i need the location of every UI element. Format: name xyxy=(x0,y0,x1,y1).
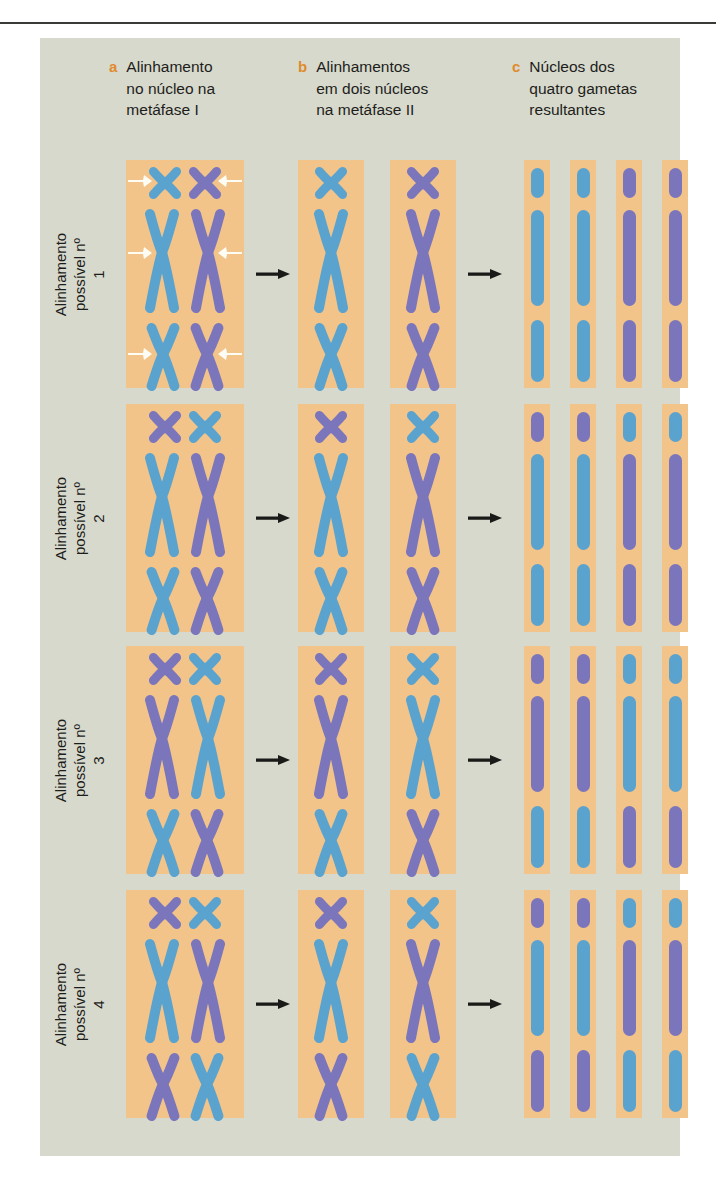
chromosome-medium-purple xyxy=(312,1052,350,1122)
gamete-chromosome-small-purple xyxy=(577,654,590,684)
row-label-alignment-3: Alinhamento possível nº 3 xyxy=(40,646,120,874)
chromosome-medium-blue xyxy=(312,808,350,878)
column-header-letter-c: c xyxy=(512,56,520,77)
metaphase1-nucleus-row3 xyxy=(126,646,244,874)
spindle-arrow-left-icon xyxy=(128,245,152,261)
chromosome-small-purple xyxy=(406,166,440,200)
row-label-text-2: Alinhamento possível nº 2 xyxy=(52,476,109,559)
chromosome-medium-blue-maternal xyxy=(144,566,182,636)
flow-arrow-icon xyxy=(256,511,290,525)
gamete-chromosome-medium-blue xyxy=(577,806,590,868)
gamete-chromosome-small-purple xyxy=(531,412,544,442)
chromosome-large-blue xyxy=(311,208,351,314)
chromosome-small-purple-paternal xyxy=(188,166,222,200)
gamete-nucleus-row3-3 xyxy=(616,646,642,874)
gamete-chromosome-small-purple xyxy=(577,412,590,442)
gamete-chromosome-medium-purple xyxy=(669,320,682,382)
gamete-nucleus-row3-1 xyxy=(524,646,550,874)
flow-arrow-icon xyxy=(256,267,290,281)
gamete-chromosome-medium-blue xyxy=(531,320,544,382)
chromosome-small-purple-maternal xyxy=(148,410,182,444)
chromosome-medium-blue xyxy=(312,566,350,636)
chromosome-medium-purple-maternal xyxy=(144,1052,182,1122)
column-header-letter-a: a xyxy=(109,56,117,77)
flow-arrow-icon xyxy=(468,753,502,767)
chromosome-large-purple-paternal xyxy=(188,938,228,1044)
gamete-chromosome-medium-blue xyxy=(577,320,590,382)
row-label-alignment-1: Alinhamento possível nº 1 xyxy=(40,160,120,388)
gamete-nucleus-row4-4 xyxy=(662,890,688,1118)
gamete-nucleus-row1-4 xyxy=(662,160,688,388)
meiosis-figure-panel: aAlinhamento no núcleo na metáfase IbAli… xyxy=(40,38,680,1156)
gamete-nucleus-row1-2 xyxy=(570,160,596,388)
chromosome-large-purple xyxy=(311,694,351,800)
gamete-nucleus-row3-2 xyxy=(570,646,596,874)
metaphase1-nucleus-row2 xyxy=(126,404,244,632)
chromosome-small-blue-paternal xyxy=(188,652,222,686)
gamete-chromosome-small-blue xyxy=(577,168,590,198)
gamete-chromosome-medium-blue xyxy=(577,564,590,626)
gamete-chromosome-large-purple xyxy=(669,210,682,306)
gamete-nucleus-row2-3 xyxy=(616,404,642,632)
column-header-b: bAlinhamentos em dois núcleos na metáfas… xyxy=(298,56,493,121)
spindle-arrow-right-icon xyxy=(218,346,242,362)
gamete-chromosome-large-blue xyxy=(669,696,682,792)
column-headers: aAlinhamento no núcleo na metáfase IbAli… xyxy=(40,38,680,156)
gamete-nucleus-row2-2 xyxy=(570,404,596,632)
gamete-nucleus-row4-2 xyxy=(570,890,596,1118)
metaphase2-nucleus-row1-2 xyxy=(390,160,456,388)
spindle-arrow-right-icon xyxy=(218,173,242,189)
chromosome-large-blue-maternal xyxy=(142,938,182,1044)
gamete-chromosome-large-blue xyxy=(577,940,590,1036)
gamete-chromosome-medium-purple xyxy=(623,806,636,868)
metaphase2-nucleus-row3-1 xyxy=(298,646,364,874)
chromosome-medium-purple xyxy=(404,808,442,878)
column-header-text-a: Alinhamento no núcleo na metáfase I xyxy=(126,56,215,121)
row-label-text-4: Alinhamento possível nº 4 xyxy=(52,962,109,1045)
chromosome-medium-blue xyxy=(404,1052,442,1122)
chromosome-small-blue-paternal xyxy=(188,410,222,444)
gamete-chromosome-small-blue xyxy=(623,654,636,684)
gamete-nucleus-row1-3 xyxy=(616,160,642,388)
gamete-chromosome-medium-purple xyxy=(669,564,682,626)
gamete-chromosome-medium-purple xyxy=(669,806,682,868)
chromosome-small-blue-paternal xyxy=(188,896,222,930)
metaphase2-nucleus-row2-1 xyxy=(298,404,364,632)
gamete-nucleus-row4-3 xyxy=(616,890,642,1118)
chromosome-large-purple xyxy=(403,208,443,314)
gamete-nucleus-row4-1 xyxy=(524,890,550,1118)
gamete-chromosome-small-purple xyxy=(623,168,636,198)
gamete-nucleus-row2-4 xyxy=(662,404,688,632)
flow-arrow-icon xyxy=(256,997,290,1011)
chromosome-medium-blue-maternal xyxy=(144,808,182,878)
chromosome-large-purple-paternal xyxy=(188,452,228,558)
gamete-chromosome-large-blue xyxy=(577,454,590,550)
flow-arrow-icon xyxy=(468,511,502,525)
gamete-chromosome-medium-blue xyxy=(669,1050,682,1112)
gamete-chromosome-large-purple xyxy=(577,696,590,792)
flow-arrow-icon xyxy=(256,753,290,767)
gamete-chromosome-medium-purple xyxy=(577,1050,590,1112)
chromosome-large-blue xyxy=(311,452,351,558)
gamete-chromosome-large-blue xyxy=(531,210,544,306)
gamete-chromosome-small-blue xyxy=(531,168,544,198)
chromosome-small-purple xyxy=(314,652,348,686)
chromosome-large-purple xyxy=(403,452,443,558)
chromosome-medium-blue xyxy=(312,322,350,392)
chromosome-large-blue xyxy=(311,938,351,1044)
column-header-text-c: Núcleos dos quatro gametas resultantes xyxy=(529,56,637,121)
gamete-chromosome-small-blue xyxy=(669,898,682,928)
row-label-alignment-2: Alinhamento possível nº 2 xyxy=(40,404,120,632)
chromosome-medium-purple xyxy=(404,322,442,392)
gamete-chromosome-small-blue xyxy=(669,412,682,442)
spindle-arrow-right-icon xyxy=(218,245,242,261)
chromosome-small-purple-maternal xyxy=(148,896,182,930)
gamete-nucleus-row2-1 xyxy=(524,404,550,632)
chromosome-medium-purple-paternal xyxy=(188,566,226,636)
gamete-chromosome-large-purple xyxy=(623,940,636,1036)
row-label-text-3: Alinhamento possível nº 3 xyxy=(52,718,109,801)
gamete-chromosome-large-purple xyxy=(669,940,682,1036)
spindle-arrow-left-icon xyxy=(128,173,152,189)
column-header-c: cNúcleos dos quatro gametas resultantes xyxy=(512,56,682,121)
flow-arrow-icon xyxy=(468,997,502,1011)
